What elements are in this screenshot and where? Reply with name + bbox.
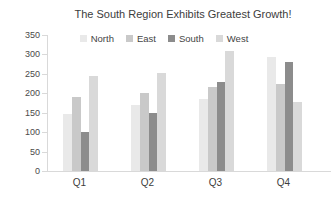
y-axis-tick-label: 250 (10, 69, 40, 79)
bar-north-q4 (267, 57, 276, 171)
bar-group-q1 (63, 35, 98, 171)
x-axis-category-label: Q2 (130, 177, 165, 188)
y-axis-tick-mark (42, 74, 47, 75)
bar-south-q3 (217, 82, 226, 171)
y-axis-tick-label: 350 (10, 30, 40, 40)
y-axis-tick-label: 0 (10, 166, 40, 176)
bar-west-q2 (157, 73, 166, 171)
bar-east-q1 (72, 97, 81, 171)
x-axis-category-label: Q3 (198, 177, 233, 188)
y-axis-tick-label: 150 (10, 108, 40, 118)
x-axis-category-label: Q4 (266, 177, 301, 188)
bar-group-q4 (267, 35, 302, 171)
x-axis-category-label: Q1 (62, 177, 97, 188)
bar-west-q1 (89, 76, 98, 171)
y-axis-tick-mark (42, 113, 47, 114)
y-axis-tick-label: 200 (10, 88, 40, 98)
bar-north-q2 (131, 105, 140, 171)
bar-west-q3 (225, 51, 234, 171)
plot-area (47, 35, 331, 172)
y-axis-tick-mark (42, 54, 47, 55)
bar-group-q2 (131, 35, 166, 171)
chart-title: The South Region Exhibits Greatest Growt… (30, 8, 336, 20)
bar-east-q4 (276, 84, 285, 171)
bar-south-q4 (285, 62, 294, 171)
bar-north-q1 (63, 114, 72, 172)
y-axis-tick-label: 300 (10, 49, 40, 59)
bar-east-q3 (208, 87, 217, 171)
bar-south-q2 (149, 113, 158, 171)
bar-south-q1 (81, 132, 90, 171)
bar-west-q4 (293, 102, 302, 171)
y-axis-tick-mark (42, 171, 47, 172)
bar-east-q2 (140, 93, 149, 171)
bar-group-q3 (199, 35, 234, 171)
bar-chart: The South Region Exhibits Greatest Growt… (0, 0, 336, 203)
bar-north-q3 (199, 99, 208, 171)
y-axis-tick-label: 50 (10, 147, 40, 157)
y-axis-tick-label: 100 (10, 127, 40, 137)
y-axis-tick-mark (42, 93, 47, 94)
y-axis-tick-mark (42, 132, 47, 133)
y-axis-tick-mark (42, 152, 47, 153)
y-axis-tick-mark (42, 35, 47, 36)
